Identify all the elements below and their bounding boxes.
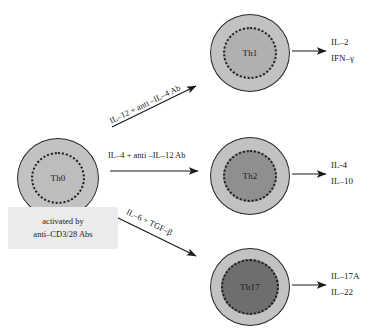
- outputs-th17: IL–17A IL–22: [331, 272, 360, 297]
- cell-th1-label: Th1: [242, 48, 257, 58]
- outputs-th1: IL–2 IFN–γ: [331, 38, 354, 63]
- nucleus-th2: Th2: [223, 150, 277, 202]
- nucleus-th17: Th17: [221, 259, 279, 315]
- output-th1-1: IFN–γ: [331, 54, 354, 63]
- th-differentiation-diagram: Th0 activated by anti–CD3/28 Abs IL–12 +…: [0, 0, 371, 329]
- nucleus-th1: Th1: [223, 27, 277, 79]
- activation-box: activated by anti–CD3/28 Abs: [8, 207, 118, 249]
- cell-th0-label: Th0: [50, 173, 65, 183]
- condition-label-th2: IL–4 + anti –IL–12 Ab: [108, 150, 186, 160]
- cell-th1: Th1: [210, 14, 290, 92]
- outputs-th2: IL-4 IL–10: [331, 161, 353, 186]
- nucleus-th0: Th0: [31, 152, 85, 204]
- activation-line-1: activated by: [42, 215, 83, 228]
- output-th17-0: IL–17A: [331, 272, 360, 281]
- output-th2-0: IL-4: [331, 161, 353, 170]
- arrow-th0-to-th1: [112, 86, 196, 127]
- output-th2-1: IL–10: [331, 177, 353, 186]
- cell-th17: Th17: [210, 248, 290, 326]
- cell-th17-label: Th17: [240, 282, 260, 292]
- output-th17-1: IL–22: [331, 288, 360, 297]
- output-th1-0: IL–2: [331, 38, 354, 47]
- cell-th2-label: Th2: [242, 171, 257, 181]
- cell-th0: Th0: [17, 138, 99, 218]
- cell-th2: Th2: [210, 137, 290, 215]
- activation-line-2: anti–CD3/28 Abs: [33, 228, 92, 241]
